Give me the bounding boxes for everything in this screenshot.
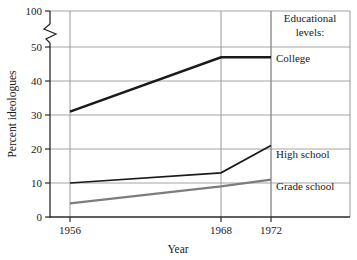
legend-label-college: College: [276, 52, 310, 64]
legend-label-grade-school: Grade school: [276, 180, 334, 192]
x-tick-label-1956: 1956: [59, 224, 82, 236]
line-chart: 100 50 40 30 20 10 0 1956 1968 1972 Perc…: [0, 0, 357, 260]
y-tick-label-0: 0: [37, 211, 43, 223]
x-axis-title: Year: [167, 243, 188, 255]
legend-label-high-school: High school: [276, 148, 329, 160]
legend-title-line2: levels:: [296, 26, 325, 38]
y-tick-label-30: 30: [31, 109, 43, 121]
chart-background: [0, 0, 357, 260]
x-tick-label-1972: 1972: [260, 224, 282, 236]
y-tick-label-10: 10: [31, 177, 43, 189]
y-tick-label-40: 40: [31, 75, 43, 87]
y-tick-label-20: 20: [31, 143, 43, 155]
x-tick-label-1968: 1968: [210, 224, 233, 236]
y-axis-title: Percent ideologues: [6, 70, 19, 158]
y-tick-label-100: 100: [26, 5, 43, 17]
chart-container: 100 50 40 30 20 10 0 1956 1968 1972 Perc…: [0, 0, 357, 260]
y-tick-label-50: 50: [31, 41, 43, 53]
legend-title-line1: Educational: [284, 12, 337, 24]
